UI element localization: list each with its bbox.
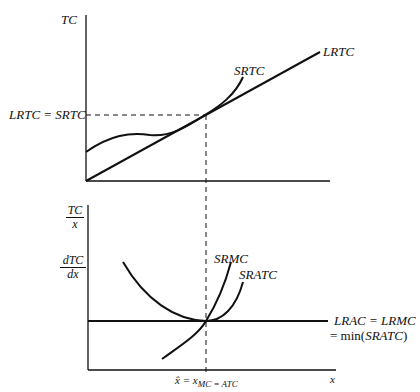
- srmc-curve: [162, 262, 231, 359]
- x-hat-tick-label: x̂ = xMC = ATC: [175, 374, 238, 389]
- srtc-label: SRTC: [234, 63, 264, 79]
- min-sratc-label: = min(SRATC): [330, 328, 407, 344]
- lrac-lrmc-label: LRAC = LRMC: [334, 313, 416, 329]
- sratc-label: SRATC: [239, 267, 277, 283]
- sratc-curve: [123, 262, 243, 321]
- x-axis-label: x: [330, 373, 335, 385]
- srmc-label: SRMC: [214, 251, 248, 267]
- tangency-label: LRTC = SRTC: [9, 107, 86, 123]
- marginal-cost-axis-label: dTC dx: [60, 254, 86, 281]
- tc-axis-label: TC: [61, 12, 77, 28]
- average-cost-axis-label: TC x: [66, 204, 84, 231]
- srtc-curve: [86, 77, 243, 152]
- lrtc-label: LRTC: [323, 44, 354, 60]
